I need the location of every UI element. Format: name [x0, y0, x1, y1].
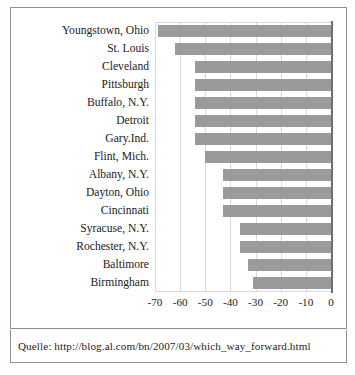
bar — [240, 241, 331, 253]
chart-screenshot: Youngstown, OhioSt. LouisClevelandPittsb… — [0, 0, 355, 375]
bar — [175, 43, 331, 55]
category-label: Rochester, N.Y. — [76, 241, 149, 253]
bar-row — [155, 61, 331, 73]
tick-label: 0 — [328, 296, 334, 308]
category-label: Dayton, Ohio — [86, 187, 149, 199]
bar-row — [155, 241, 331, 253]
bar — [223, 169, 331, 181]
bar-row — [155, 187, 331, 199]
category-label: Detroit — [116, 115, 149, 127]
category-label: Birmingham — [90, 277, 149, 289]
category-label: Buffalo, N.Y. — [87, 97, 149, 109]
bar — [205, 151, 331, 163]
bar-row — [155, 259, 331, 271]
bar-row — [155, 79, 331, 91]
bar-row — [155, 43, 331, 55]
bar-series — [155, 22, 331, 292]
category-label: Youngstown, Ohio — [62, 25, 149, 37]
bar — [248, 259, 331, 271]
category-label: Flint, Mich. — [94, 151, 149, 163]
bar — [240, 223, 331, 235]
tick-label: -40 — [223, 296, 238, 308]
bar — [223, 187, 331, 199]
bar — [195, 115, 331, 127]
zero-axis-line — [331, 21, 333, 293]
source-caption-box: Quelle: http://blog.al.com/bn/2007/03/wh… — [10, 330, 347, 363]
tick-label: -10 — [298, 296, 313, 308]
category-label: Pittsburgh — [102, 79, 149, 91]
bar — [253, 277, 331, 289]
bar-row — [155, 25, 331, 37]
bar-row — [155, 115, 331, 127]
tick-label: -50 — [198, 296, 213, 308]
category-label: Cleveland — [102, 61, 149, 73]
bar-row — [155, 151, 331, 163]
bar — [195, 97, 331, 109]
bar-row — [155, 223, 331, 235]
bar — [158, 25, 331, 37]
tick-label: -60 — [173, 296, 188, 308]
category-label: Gary.Ind. — [105, 133, 149, 145]
bar-chart: Youngstown, OhioSt. LouisClevelandPittsb… — [11, 8, 346, 328]
bar-row — [155, 205, 331, 217]
category-label: Baltimore — [103, 259, 149, 271]
bar-row — [155, 133, 331, 145]
tick-label: -30 — [248, 296, 263, 308]
category-label: Albany, N.Y. — [89, 169, 149, 181]
category-label: St. Louis — [107, 43, 149, 55]
bar — [195, 133, 331, 145]
chart-frame: Youngstown, OhioSt. LouisClevelandPittsb… — [10, 7, 347, 329]
value-axis-tick-labels: -70-60-50-40-30-20-100 — [155, 296, 331, 316]
bar — [195, 61, 331, 73]
tick-label: -20 — [273, 296, 288, 308]
bar-row — [155, 97, 331, 109]
category-label: Cincinnati — [101, 205, 149, 217]
category-axis-labels: Youngstown, OhioSt. LouisClevelandPittsb… — [17, 22, 149, 292]
source-caption: Quelle: http://blog.al.com/bn/2007/03/wh… — [11, 340, 311, 352]
bar — [195, 79, 331, 91]
bar — [223, 205, 331, 217]
tick-label: -70 — [148, 296, 163, 308]
bar-row — [155, 169, 331, 181]
plot-area — [155, 22, 331, 292]
bar-row — [155, 277, 331, 289]
category-label: Syracuse, N.Y. — [80, 223, 149, 235]
